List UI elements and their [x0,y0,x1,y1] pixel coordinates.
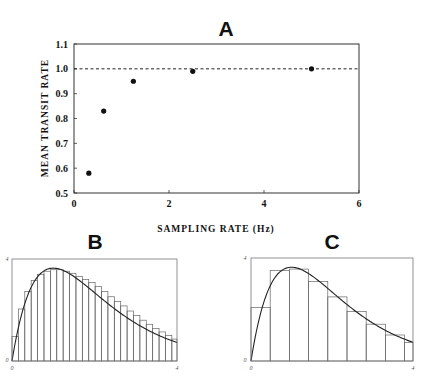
panel-c: C 4 0 0 4 [244,230,415,371]
y-tick-label: 0.5 [56,188,69,199]
panel-b-xtick-max: 4 [176,365,179,371]
y-tick-label: 0.9 [56,88,69,99]
panel-c-ytick-0: 0 [244,357,247,363]
panel-c-bar [347,312,366,361]
panel-c-bar [366,324,385,361]
y-tick-label: 0.7 [56,138,69,149]
data-point [101,108,106,113]
y-tick-label: 0.6 [56,163,69,174]
panel-b-bar [38,274,44,361]
panel-c-bar [270,270,289,361]
panel-b-bar [82,279,88,361]
panel-b-bar [57,270,63,361]
panel-b-curve [12,268,177,361]
panel-c-bar [309,281,328,361]
y-tick-label: 0.8 [56,113,69,124]
panel-b-bar [44,271,50,361]
panel-c-bar [405,342,413,361]
panel-c-curve [251,267,413,361]
figure: A 02460.50.60.70.80.91.01.1 SAMPLING RAT… [0,0,431,389]
panel-c-bar [385,335,404,361]
y-axis-label: MEAN TRANSIT RATE [40,59,50,177]
data-point [190,69,195,74]
y-tick-label: 1.1 [56,39,69,50]
panel-b-bar [70,273,76,361]
panel-c-title: C [324,230,339,253]
x-tick-label: 4 [262,198,267,209]
panel-a: A 02460.50.60.70.80.91.01.1 SAMPLING RAT… [40,17,362,235]
data-point [309,66,314,71]
panel-a-frame [74,44,359,193]
data-point [86,171,91,176]
panel-b-title: B [87,230,102,253]
x-tick-label: 0 [72,198,77,209]
panel-b: B 4 0 0 4 [6,230,179,371]
x-tick-label: 6 [357,198,362,209]
panel-b-xtick-0: 0 [11,365,14,371]
panel-c-bar [328,297,347,361]
x-tick-label: 2 [167,198,172,209]
panel-b-bar [102,292,108,361]
panel-b-bar [63,271,69,361]
panel-b-bar [31,280,37,361]
data-point [131,79,136,84]
y-tick-label: 1.0 [56,63,69,74]
x-axis-label: SAMPLING RATE (Hz) [157,224,275,235]
panel-b-bar [50,270,56,361]
panel-c-xtick-0: 0 [250,365,253,371]
panel-c-ytick-max: 4 [244,255,247,261]
panel-b-frame [12,259,177,361]
panel-b-ytick-0: 0 [6,357,9,363]
panel-b-ytick-max: 4 [6,256,9,262]
panel-c-xtick-max: 4 [412,365,415,371]
panel-c-bar [289,269,308,361]
panel-a-title: A [218,17,233,40]
panel-b-bar [89,282,95,361]
panel-c-frame [251,258,413,361]
panel-b-bar [18,309,24,361]
panel-b-bar [76,276,82,361]
